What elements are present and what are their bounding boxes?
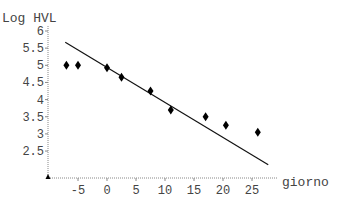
chart: 2.533.544.555.56-50510152025 Log HVL gio…: [0, 0, 351, 201]
x-tick-label: 20: [216, 184, 230, 198]
data-point: [148, 87, 154, 96]
origin-marker: [46, 174, 51, 179]
y-tick-label: 5.5: [22, 42, 44, 56]
y-tick-label: 3: [37, 128, 44, 142]
fit-line: [65, 42, 268, 164]
y-tick-label: 3.5: [22, 111, 44, 125]
data-point: [119, 73, 125, 82]
data-point: [203, 112, 209, 121]
data-point: [255, 128, 261, 137]
y-tick-label: 5: [37, 59, 44, 73]
y-tick-label: 4: [37, 94, 44, 108]
x-tick-label: 15: [187, 184, 201, 198]
y-tick-label: 6: [37, 25, 44, 39]
x-tick-label: -5: [71, 184, 85, 198]
x-tick-label: 5: [132, 184, 139, 198]
data-point: [75, 61, 81, 70]
data-point: [63, 61, 69, 70]
axes: 2.533.544.555.56-50510152025: [22, 25, 278, 198]
x-tick-label: 25: [245, 184, 259, 198]
data-point: [223, 121, 229, 130]
data-point: [104, 63, 110, 72]
y-axis-label: Log HVL: [2, 11, 57, 26]
x-axis-label: giorno: [282, 175, 329, 190]
x-tick-label: 0: [103, 184, 110, 198]
regression-line: [65, 42, 268, 164]
y-tick-label: 4.5: [22, 76, 44, 90]
x-tick-label: 10: [158, 184, 172, 198]
data-points: [63, 61, 260, 137]
y-tick-label: 2.5: [22, 145, 44, 159]
